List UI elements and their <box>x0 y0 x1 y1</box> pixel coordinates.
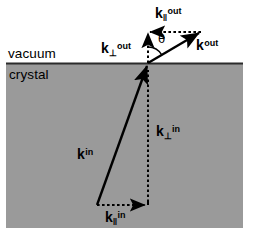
k-par-out-base: k <box>155 5 163 21</box>
k-out-superscript: out <box>204 38 218 48</box>
k-perp-out-superscript: out <box>117 41 131 51</box>
k-par-in-superscript: in <box>117 210 125 220</box>
vector-label-k-perp-in: k⊥in <box>156 124 180 141</box>
momentum-conservation-diagram: vacuum crystal k‖out kout k⊥out θ kin k⊥… <box>0 0 255 242</box>
k-perp-in-subscript: ⊥ <box>164 131 172 141</box>
vector-label-k-in: kin <box>77 147 93 161</box>
k-par-out-superscript: out <box>167 6 181 16</box>
vector-label-k-par-out: k‖out <box>155 6 181 23</box>
vector-label-k-par-in: k‖in <box>105 210 125 227</box>
k-perp-in-superscript: in <box>172 124 180 134</box>
k-perp-in-base: k <box>156 123 164 139</box>
diagram-canvas <box>0 0 255 242</box>
k-perp-out-base: k <box>101 40 109 56</box>
angle-label-theta: θ <box>158 32 165 45</box>
vector-label-k-perp-out: k⊥out <box>101 41 131 58</box>
crystal-region <box>6 63 243 228</box>
crystal-label: crystal <box>9 68 49 82</box>
vector-label-k-out: kout <box>196 38 218 52</box>
k-perp-out-subscript: ⊥ <box>109 48 117 58</box>
k-in-superscript: in <box>85 147 93 157</box>
vacuum-label: vacuum <box>8 47 56 61</box>
k-in-base: k <box>77 146 85 162</box>
k-par-in-base: k <box>105 209 113 225</box>
k-out-base: k <box>196 37 204 53</box>
